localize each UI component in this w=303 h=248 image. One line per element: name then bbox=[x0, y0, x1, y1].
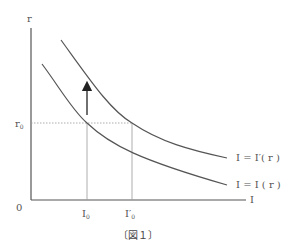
I0-label: I0 bbox=[82, 208, 90, 220]
origin-label: 0 bbox=[16, 202, 22, 213]
figure-caption: 〔図１〕 bbox=[118, 230, 158, 241]
investment-curve-diagram: r I 0 r0 I0 I′0 I = I′( r ) I = I ( r ) … bbox=[0, 0, 303, 248]
shifted-investment-curve bbox=[61, 40, 227, 158]
x-axis-label: I bbox=[250, 194, 254, 205]
r0-label: r0 bbox=[15, 118, 24, 130]
y-axis-label: r bbox=[27, 13, 32, 24]
I0-prime-label: I′0 bbox=[125, 208, 135, 220]
original-curve-label: I = I ( r ) bbox=[236, 179, 281, 190]
shifted-curve-label: I = I′( r ) bbox=[236, 152, 280, 163]
